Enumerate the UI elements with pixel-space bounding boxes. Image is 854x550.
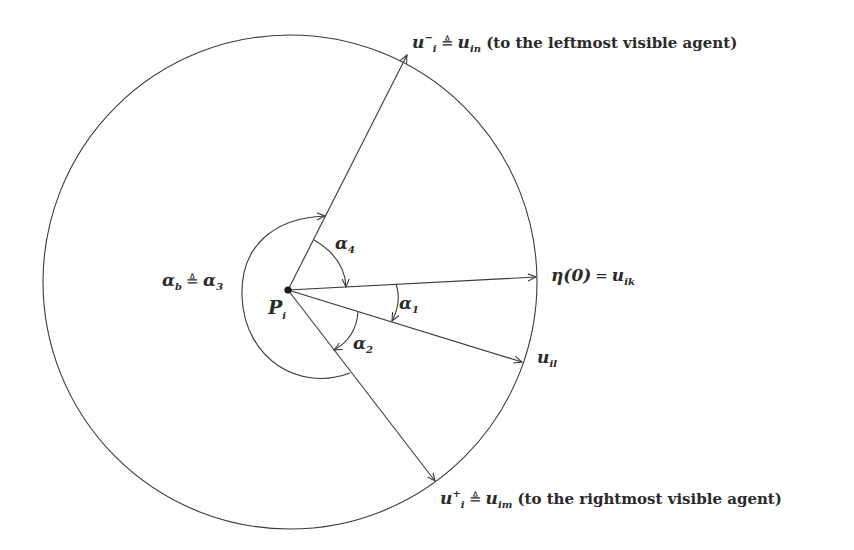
label-u-il: uil <box>537 347 557 367</box>
label-p-i: Pi <box>268 296 286 318</box>
agent-point-pi <box>284 286 291 293</box>
note-rightmost: (to the rightmost visible agent) <box>517 490 781 508</box>
diagram-canvas <box>0 0 854 550</box>
vector-u-im <box>288 290 435 481</box>
visibility-circle <box>43 35 537 529</box>
label-alpha1: α1 <box>399 293 419 313</box>
arc-alpha3 <box>242 216 350 378</box>
label-alpha4: α4 <box>335 233 355 253</box>
label-alpha2: α2 <box>353 333 373 353</box>
note-leftmost: (to the leftmost visible agent) <box>486 34 737 52</box>
label-alpha-b: αb≜α3 <box>162 270 223 290</box>
label-u-in: u−i≜uin (to the leftmost visible agent) <box>412 32 737 52</box>
label-eta0: η(0)=uik <box>551 265 635 285</box>
label-u-im: u+i≜uim (to the rightmost visible agent) <box>440 488 782 508</box>
vector-eta0 <box>288 277 536 290</box>
arc-alpha1 <box>392 284 398 321</box>
